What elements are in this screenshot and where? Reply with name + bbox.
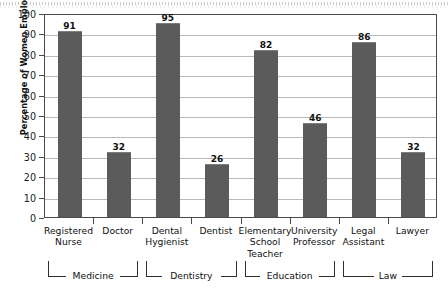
group-bracket-arm [334,261,335,277]
bar [58,31,82,217]
y-axis-tick-label: 30 [10,151,36,162]
y-axis-tick-labels: 0102030405060708090100 [10,14,36,218]
group-bracket-rule [245,276,261,277]
bar-value-label: 26 [211,154,224,164]
x-axis-tick-mark [142,218,143,224]
x-axis-tick-mark [93,218,94,224]
bar [205,164,229,217]
category-group-brackets: MedicineDentistryEducationLaw [44,261,437,287]
group-bracket-rule [343,276,374,277]
bar-value-label: 95 [162,13,175,23]
group-bracket-arm [48,261,49,277]
y-axis-tick-label: 100 [10,9,36,20]
group-bracket-arm [432,261,433,277]
group-label: Law [376,270,400,281]
x-axis-tick-mark [290,218,291,224]
bar-slot: 95 [143,15,192,217]
bar-slot: 32 [389,15,438,217]
y-axis-tick-label: 70 [10,70,36,81]
x-axis-tick-marks [44,218,437,224]
x-axis-tick-mark [241,218,242,224]
bar-value-label: 91 [63,21,76,31]
group-bracket-rule [221,276,237,277]
bar [401,152,425,217]
group-bracket-rule [402,276,433,277]
bar-value-label: 46 [309,113,322,123]
bar [107,152,131,217]
group-bracket-rule [120,276,138,277]
x-axis-category-label: Lawyer [384,225,441,236]
x-axis-category-labels: Registered NurseDoctorDental HygienistDe… [44,225,437,261]
bar-slot: 46 [291,15,340,217]
y-axis-tick-label: 10 [10,192,36,203]
bar-slot: 26 [192,15,241,217]
bar-value-label: 82 [260,40,273,50]
x-axis-tick-mark [191,218,192,224]
group-bracket-rule [146,276,162,277]
bar-slot: 82 [242,15,291,217]
x-axis-tick-mark [388,218,389,224]
bar-series: 9132952682468632 [45,15,436,217]
y-axis-tick-label: 90 [10,29,36,40]
x-axis-tick-mark [339,218,340,224]
bar-value-label: 32 [112,142,125,152]
y-axis-tick-label: 20 [10,172,36,183]
group-bracket-arm [343,261,344,277]
bar-value-label: 32 [407,142,420,152]
group-bracket-arm [245,261,246,277]
group-bracket-rule [319,276,335,277]
group-bracket-arm [146,261,147,277]
y-axis-tick-label: 0 [10,213,36,224]
group-label: Medicine [70,270,117,281]
group-bracket-arm [137,261,138,277]
bar-value-label: 86 [358,32,371,42]
y-axis-tick-label: 60 [10,90,36,101]
group-bracket: Education [245,261,335,283]
scan-artifact-line-secondary [0,5,448,8]
group-bracket-arm [236,261,237,277]
group-label: Education [264,270,316,281]
y-axis-tick-label: 80 [10,49,36,60]
group-label: Dentistry [167,270,215,281]
group-bracket: Medicine [48,261,138,283]
group-bracket-rule [48,276,66,277]
bar-slot: 91 [45,15,94,217]
bar [352,42,376,217]
plot-area: 9132952682468632 [44,14,437,218]
group-bracket: Law [343,261,433,283]
bar [303,123,327,217]
bar [254,50,278,217]
y-axis-tick-label: 40 [10,131,36,142]
bar-slot: 32 [94,15,143,217]
bar-chart: Percentage of Women Employed 01020304050… [0,0,448,288]
bar-slot: 86 [340,15,389,217]
y-axis-tick-label: 50 [10,111,36,122]
group-bracket: Dentistry [146,261,236,283]
bar [156,23,180,217]
